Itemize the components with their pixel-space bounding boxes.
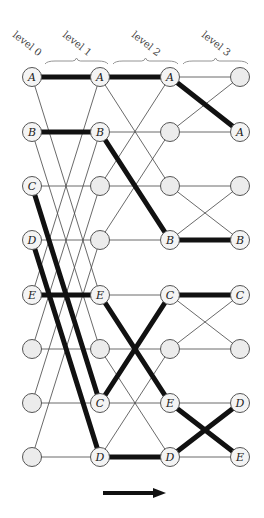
node-b: B	[231, 231, 250, 250]
node-c: C	[231, 286, 250, 305]
node-label: C	[28, 180, 37, 193]
node-label: B	[95, 126, 104, 139]
node-label: D	[165, 451, 175, 464]
node-e: E	[161, 394, 180, 413]
node-empty	[231, 177, 250, 196]
node-label: A	[95, 71, 104, 84]
node-label: B	[27, 126, 36, 139]
node-a: A	[161, 68, 180, 87]
node-label: E	[27, 289, 36, 302]
level-label: level 3	[200, 29, 233, 58]
node-label: C	[166, 289, 175, 302]
node-label: E	[165, 397, 174, 410]
node-empty	[231, 340, 250, 359]
node-label: E	[235, 451, 244, 464]
node-a: A	[23, 68, 42, 87]
level-label: level 1	[61, 29, 94, 58]
level-braces	[45, 58, 248, 64]
node-c: C	[161, 286, 180, 305]
node-d: D	[23, 231, 42, 250]
node-label: B	[235, 234, 244, 247]
node-b: B	[91, 123, 110, 142]
node-label: C	[236, 289, 245, 302]
node-b: B	[161, 231, 180, 250]
level-brace	[113, 58, 178, 64]
level-brace	[183, 58, 248, 64]
highlighted-routes	[32, 77, 240, 457]
level-brace	[45, 58, 108, 64]
node-a: A	[231, 123, 250, 142]
node-e: E	[231, 448, 250, 467]
node-empty	[23, 340, 42, 359]
butterfly-network-diagram: level 0level 1level 2level 3 ABCDEABECDA…	[0, 0, 264, 518]
node-empty	[91, 340, 110, 359]
node-label: D	[235, 397, 245, 410]
node-c: C	[23, 177, 42, 196]
node-empty	[161, 177, 180, 196]
level-label: level 2	[130, 29, 163, 58]
node-label: C	[96, 397, 105, 410]
node-e: E	[91, 286, 110, 305]
level-labels: level 0level 1level 2level 3	[11, 29, 233, 58]
node-empty	[91, 231, 110, 250]
node-empty	[161, 340, 180, 359]
node-d: D	[161, 448, 180, 467]
node-c: C	[91, 394, 110, 413]
node-empty	[91, 177, 110, 196]
node-label: A	[27, 71, 36, 84]
node-e: E	[23, 286, 42, 305]
level-label: level 0	[11, 29, 44, 58]
direction-arrow-icon	[103, 488, 166, 498]
node-b: B	[23, 123, 42, 142]
node-label: A	[165, 71, 174, 84]
node-empty	[161, 123, 180, 142]
node-label: D	[27, 234, 37, 247]
node-label: D	[95, 451, 105, 464]
node-d: D	[231, 394, 250, 413]
node-empty	[23, 394, 42, 413]
route-a	[32, 77, 240, 132]
node-label: E	[95, 289, 104, 302]
node-a: A	[91, 68, 110, 87]
node-d: D	[91, 448, 110, 467]
node-label: B	[165, 234, 174, 247]
node-empty	[23, 448, 42, 467]
node-label: A	[235, 126, 244, 139]
node-empty	[231, 68, 250, 87]
